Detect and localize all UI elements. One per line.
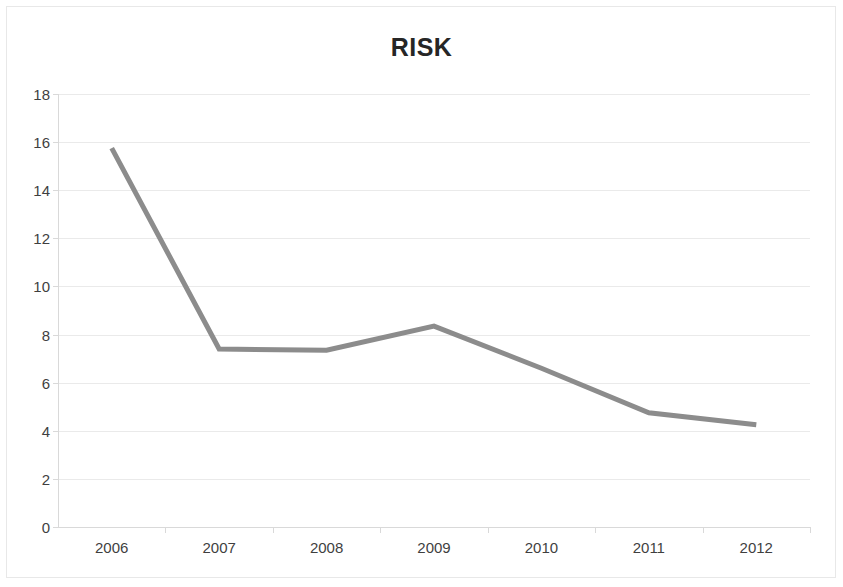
gridline [58, 479, 810, 480]
y-axis-tick-label: 4 [6, 422, 50, 439]
y-axis-tick-label: 8 [6, 326, 50, 343]
x-axis-tick-label: 2012 [740, 539, 773, 556]
y-axis-labels: 024681012141618 [0, 94, 50, 527]
x-axis-line [58, 527, 811, 528]
x-axis-tick-label: 2007 [202, 539, 235, 556]
gridline [58, 383, 810, 384]
x-tick-mark [380, 528, 381, 533]
x-axis-tick-label: 2010 [525, 539, 558, 556]
gridline [58, 431, 810, 432]
x-tick-mark [703, 528, 704, 533]
x-axis-tick-label: 2006 [95, 539, 128, 556]
y-axis-tick-label: 14 [6, 182, 50, 199]
y-axis-tick-label: 0 [6, 519, 50, 536]
y-axis-line [58, 94, 59, 528]
y-axis-tick-label: 18 [6, 86, 50, 103]
chart-title: RISK [0, 33, 843, 62]
gridline [58, 142, 810, 143]
plot-area [58, 94, 810, 527]
x-tick-mark [273, 528, 274, 533]
gridline [58, 335, 810, 336]
x-tick-mark [595, 528, 596, 533]
chart-container: RISK 024681012141618 2006200720082009201… [0, 0, 843, 587]
y-axis-tick-label: 6 [6, 374, 50, 391]
gridline [58, 286, 810, 287]
x-tick-mark [165, 528, 166, 533]
gridline [58, 94, 810, 95]
y-axis-tick-label: 12 [6, 230, 50, 247]
y-axis-tick-label: 10 [6, 278, 50, 295]
x-axis-tick-label: 2011 [633, 539, 665, 556]
gridline [58, 190, 810, 191]
gridline [58, 238, 810, 239]
x-axis-tick-label: 2009 [417, 539, 450, 556]
x-tick-mark [488, 528, 489, 533]
x-tick-mark [810, 528, 811, 533]
x-axis-tick-label: 2008 [310, 539, 343, 556]
y-axis-tick-label: 16 [6, 134, 50, 151]
y-axis-tick-label: 2 [6, 470, 50, 487]
